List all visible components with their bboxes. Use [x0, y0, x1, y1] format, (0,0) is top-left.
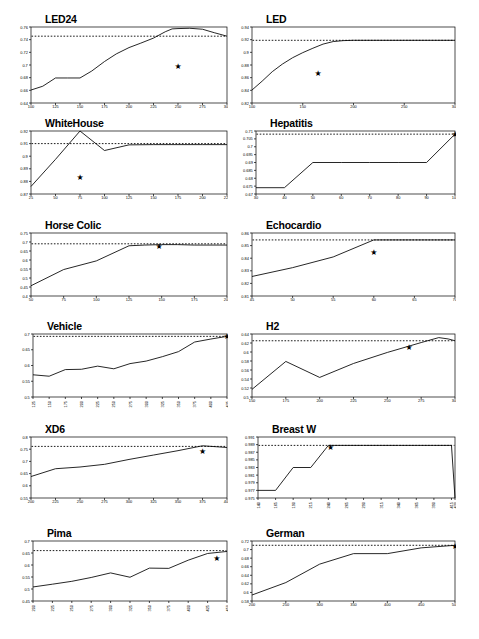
y-axis-tick-label: 0.54	[241, 377, 249, 382]
star-marker: ★	[451, 130, 456, 139]
y-axis-tick-label: 0.66	[241, 564, 249, 569]
x-axis-tick-label: 100	[28, 104, 35, 109]
plot-area: 0.50.520.540.560.580.60.620.641501752002…	[235, 333, 456, 407]
y-axis-tick-label: 0.695	[243, 152, 253, 157]
x-axis-tick-label: 225	[224, 195, 228, 200]
y-axis-tick-label: 0.83	[241, 268, 249, 273]
y-axis-tick-label: 0.6	[24, 363, 29, 368]
x-axis-tick-label: 175	[283, 398, 290, 403]
y-axis-tick-label: 0.92	[20, 130, 28, 134]
x-axis-tick-label: 340	[396, 501, 401, 508]
x-axis-tick-label: 125	[31, 401, 36, 408]
plot-area: 0.550.60.650.70.750.82002252502753003253…	[14, 436, 228, 508]
plot-frame	[252, 233, 455, 296]
plot-area: 0.870.880.890.90.910.9225507510012515017…	[14, 130, 228, 204]
y-axis-tick-label: 0.983	[245, 465, 255, 470]
x-axis-tick-label: 275	[101, 499, 108, 504]
y-axis-tick-label: 0.76	[20, 26, 28, 30]
x-axis-tick-label: 45	[250, 297, 254, 302]
y-axis-tick-label: 0.72	[20, 50, 28, 55]
y-axis-tick-label: 0.52	[241, 386, 249, 391]
x-axis-tick-label: 250	[401, 104, 408, 109]
y-axis-tick-label: 0.7	[22, 63, 27, 68]
plot-area: 0.640.660.680.70.720.740.761001251501752…	[14, 26, 228, 113]
plot-frame	[258, 437, 455, 498]
y-axis-tick-label: 0.5	[24, 587, 29, 592]
y-axis-tick-label: 0.8	[22, 436, 27, 440]
x-axis-tick-label: 375	[192, 401, 197, 408]
x-axis-tick-label: 450	[225, 604, 228, 611]
x-axis-tick-label: 165	[273, 502, 278, 509]
x-axis-tick-label: 450	[418, 602, 425, 607]
y-axis-tick-label: 0.55	[22, 379, 30, 384]
y-axis-tick-label: 0.67	[245, 192, 253, 197]
curve-line	[31, 131, 227, 186]
x-axis-tick-label: 125	[126, 195, 133, 200]
x-axis-tick-label: 100	[249, 104, 256, 109]
x-axis-tick-label: 175	[63, 401, 68, 408]
x-axis-tick-label: 200	[28, 499, 35, 504]
chart-title: Horse Colic	[45, 220, 101, 231]
y-axis-tick-label: 0.86	[241, 75, 249, 80]
x-axis-tick-label: 275	[199, 104, 206, 109]
y-axis-tick-label: 0.7	[243, 547, 248, 552]
y-axis-tick-label: 0.94	[241, 26, 249, 30]
x-axis-tick-label: 200	[316, 398, 323, 403]
y-axis-tick-label: 0.56	[241, 368, 249, 373]
x-axis-tick-label: 250	[111, 400, 116, 407]
chart-title: LED	[266, 14, 286, 25]
plot-area: 0.50.550.60.650.712515017520022525027530…	[16, 333, 228, 418]
x-axis-tick-label: 100	[452, 195, 456, 200]
curve-line	[31, 446, 227, 477]
x-axis-tick-label: 80	[396, 195, 401, 200]
plot-area: 0.40.450.50.550.60.650.70.75507510012515…	[14, 232, 228, 306]
y-axis-tick-label: 0.68	[20, 75, 28, 80]
y-axis-tick-label: 0.55	[22, 575, 30, 580]
y-axis-tick-label: 0.58	[241, 359, 249, 364]
x-axis-tick-label: 190	[291, 501, 296, 508]
y-axis-tick-label: 0.58	[241, 599, 249, 604]
y-axis-tick-label: 0.6	[24, 563, 29, 568]
y-axis-tick-label: 0.55	[20, 267, 28, 272]
y-axis-tick-label: 0.69	[245, 160, 253, 165]
y-axis-tick-label: 0.82	[241, 101, 249, 106]
curve-line	[252, 338, 455, 390]
x-axis-tick-label: 150	[158, 297, 165, 302]
x-axis-tick-label: 400	[208, 400, 213, 407]
x-axis-tick-label: 200	[126, 104, 133, 109]
plot-frame	[252, 541, 455, 601]
curve-line	[31, 28, 227, 90]
x-axis-tick-label: 225	[150, 104, 157, 109]
y-axis-tick-label: 0.75	[20, 447, 28, 452]
star-marker: ★	[314, 69, 321, 78]
y-axis-tick-label: 0.84	[241, 88, 249, 93]
chart-title: German	[266, 528, 304, 539]
y-axis-tick-label: 0.74	[20, 37, 28, 42]
y-axis-tick-label: 0.685	[243, 168, 253, 173]
y-axis-tick-label: 0.75	[20, 232, 28, 236]
plot-frame	[252, 334, 455, 397]
y-axis-tick-label: 0.82	[241, 281, 249, 286]
plot-area: 0.670.6750.680.6850.690.6950.70.7050.713…	[239, 130, 456, 204]
x-axis-tick-label: 300	[224, 104, 228, 109]
y-axis-tick-label: 0.975	[245, 496, 255, 501]
y-axis-tick-label: 0.9	[243, 50, 248, 55]
x-axis-tick-label: 55	[331, 297, 335, 302]
curve-line	[258, 445, 455, 498]
y-axis-tick-label: 0.64	[241, 333, 249, 337]
x-axis-tick-label: 225	[350, 398, 357, 403]
x-axis-tick-label: 140	[256, 501, 261, 508]
y-axis-tick-label: 0.65	[20, 249, 28, 254]
star-marker: ★	[405, 343, 412, 352]
plot-area: 0.820.840.860.880.90.920.941001502002503…	[235, 26, 456, 113]
x-axis-tick-label: 40	[282, 195, 287, 200]
chart-title: XD6	[45, 424, 65, 435]
x-axis-tick-label: 90	[424, 195, 429, 200]
y-axis-tick-label: 0.45	[22, 599, 30, 604]
y-axis-tick-label: 0.6	[22, 258, 27, 263]
y-axis-tick-label: 0.68	[245, 176, 253, 181]
x-axis-tick-label: 350	[350, 602, 357, 607]
y-axis-tick-label: 0.71	[245, 130, 253, 134]
chart-title: Hepatitis	[270, 118, 313, 129]
curve-line	[252, 240, 455, 277]
